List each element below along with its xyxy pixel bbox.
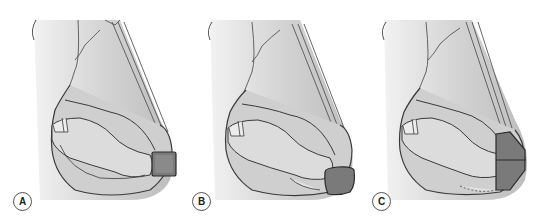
panel-label-a: A	[13, 192, 32, 211]
panel-b: B	[180, 0, 360, 222]
nose-illustration-c	[360, 0, 539, 222]
panel-label-c: C	[372, 192, 391, 211]
nose-illustration-b	[180, 0, 360, 222]
panel-label-text: A	[19, 196, 26, 207]
nose-illustration-a	[0, 0, 180, 222]
panel-label-text: C	[378, 196, 385, 207]
panel-c: C	[360, 0, 539, 222]
panel-a: A	[0, 0, 180, 222]
panel-label-text: B	[198, 196, 205, 207]
panel-label-b: B	[192, 192, 211, 211]
shield-graft	[325, 167, 355, 195]
